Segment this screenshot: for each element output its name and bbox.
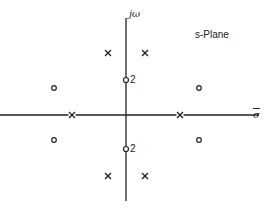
- zero-lower-right: [197, 138, 202, 143]
- pole-left-real: [69, 112, 76, 119]
- real-axis-label: σ: [253, 110, 260, 120]
- s-plane-diagram: [0, 0, 273, 209]
- pole-right-real: [177, 112, 184, 119]
- pole-lower-right: [143, 174, 148, 179]
- zero-upper-imag: [124, 78, 129, 83]
- zero-lower-left: [52, 138, 57, 143]
- zero-upper-left: [52, 86, 57, 91]
- upper-zero-multiplicity-label: 2: [130, 75, 136, 85]
- diagram-title: s-Plane: [195, 30, 229, 40]
- pole-upper-left: [106, 51, 111, 56]
- lower-zero-multiplicity-label: 2: [130, 144, 136, 154]
- imaginary-axis-label: jω: [129, 9, 140, 19]
- pole-lower-left: [106, 174, 111, 179]
- zero-upper-right: [197, 86, 202, 91]
- zero-lower-imag: [124, 147, 129, 152]
- pole-upper-right: [143, 51, 148, 56]
